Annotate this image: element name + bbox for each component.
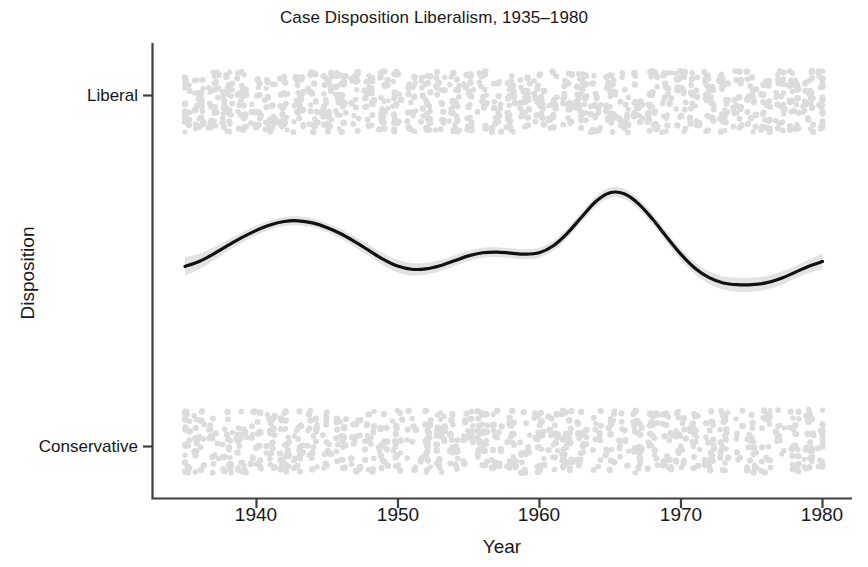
scatter-point: [695, 413, 701, 419]
scatter-point: [465, 124, 470, 129]
scatter-point: [267, 462, 273, 468]
scatter-point: [199, 409, 204, 414]
scatter-point: [256, 85, 261, 90]
scatter-point: [535, 444, 541, 450]
scatter-point: [749, 425, 755, 431]
scatter-point: [591, 73, 596, 78]
scatter-point: [391, 79, 396, 84]
scatter-point: [469, 428, 475, 434]
scatter-point: [386, 98, 391, 103]
scatter-point: [326, 442, 332, 448]
scatter-point: [774, 101, 780, 107]
scatter-point: [789, 466, 795, 472]
scatter-point: [221, 454, 227, 460]
scatter-point: [746, 432, 752, 438]
scatter-point: [413, 108, 419, 114]
scatter-point: [666, 438, 672, 444]
scatter-point: [788, 77, 794, 83]
scatter-point: [717, 439, 723, 445]
scatter-point: [410, 439, 416, 445]
scatter-point: [683, 126, 689, 132]
scatter-point: [489, 465, 495, 471]
scatter-points-conservative: [182, 407, 826, 476]
scatter-point: [640, 116, 646, 122]
scatter-point: [433, 127, 439, 133]
scatter-point: [747, 438, 752, 443]
scatter-point: [449, 437, 455, 443]
scatter-point: [214, 70, 220, 76]
scatter-point: [456, 94, 462, 100]
scatter-point: [550, 125, 556, 131]
scatter-point: [703, 92, 710, 99]
scatter-point: [284, 115, 289, 120]
scatter-point: [524, 76, 530, 82]
scatter-point: [182, 113, 188, 119]
scatter-point: [777, 94, 782, 99]
scatter-point: [314, 119, 320, 125]
scatter-point: [309, 90, 316, 97]
scatter-point: [193, 121, 198, 126]
scatter-point: [479, 411, 485, 417]
scatter-point: [442, 75, 447, 80]
scatter-point: [425, 427, 431, 433]
scatter-point: [395, 408, 400, 413]
scatter-point: [362, 457, 368, 463]
scatter-point: [466, 434, 472, 440]
scatter-point: [631, 70, 637, 76]
scatter-point: [196, 434, 202, 440]
scatter-point: [632, 81, 639, 88]
scatter-point: [310, 129, 317, 136]
scatter-point: [482, 123, 488, 129]
scatter-point: [371, 409, 376, 414]
scatter-point: [809, 448, 815, 454]
scatter-point: [681, 426, 687, 432]
scatter-point: [378, 95, 384, 101]
scatter-point: [647, 90, 654, 97]
scatter-point: [477, 79, 483, 85]
scatter-point: [453, 101, 459, 107]
scatter-point: [689, 439, 695, 445]
scatter-point: [308, 102, 313, 107]
scatter-point: [354, 433, 360, 439]
scatter-point: [355, 69, 361, 75]
scatter-point: [240, 86, 247, 93]
scatter-point: [655, 462, 661, 468]
scatter-point: [740, 408, 746, 414]
scatter-point: [541, 88, 548, 95]
scatter-point: [820, 440, 826, 446]
scatter-point: [227, 121, 232, 126]
scatter-point: [438, 417, 443, 422]
scatter-point: [285, 463, 291, 469]
scatter-point: [391, 128, 397, 134]
scatter-point: [538, 410, 543, 415]
scatter-point: [354, 87, 359, 92]
scatter-point: [723, 426, 729, 432]
scatter-point: [182, 74, 188, 80]
scatter-point: [610, 129, 616, 135]
scatter-point: [532, 410, 538, 416]
scatter-point: [343, 110, 349, 116]
scatter-point: [789, 453, 795, 459]
scatter-point: [708, 450, 713, 455]
scatter-point: [777, 68, 783, 74]
scatter-point: [439, 117, 445, 123]
scatter-point: [306, 121, 312, 127]
scatter-point: [562, 78, 567, 83]
scatter-point: [480, 428, 486, 434]
y-tick-label-conservative: Conservative: [39, 437, 138, 457]
scatter-points-liberal: [182, 68, 826, 135]
scatter-point: [227, 455, 232, 460]
scatter-point: [407, 126, 413, 132]
scatter-point: [818, 103, 824, 109]
scatter-point: [645, 111, 651, 117]
scatter-point: [418, 119, 424, 125]
scatter-point: [709, 115, 715, 121]
scatter-point: [805, 415, 811, 421]
scatter-point: [198, 467, 204, 473]
scatter-point: [250, 456, 256, 462]
scatter-point: [659, 412, 665, 418]
scatter-point: [787, 128, 792, 133]
scatter-point: [550, 114, 556, 120]
scatter-point: [749, 412, 755, 418]
scatter-point: [496, 429, 502, 435]
